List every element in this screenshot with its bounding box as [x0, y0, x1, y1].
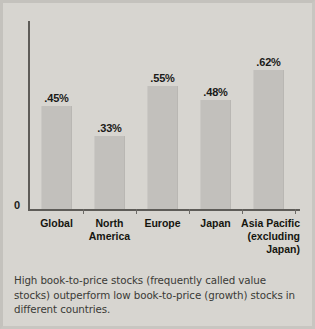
x-axis-category-labels: Global North America Europe Japan Asia P…	[30, 217, 300, 275]
x-axis-tick	[189, 209, 190, 214]
chart-caption: High book-to-price stocks (frequently ca…	[14, 273, 304, 317]
bar-value-asia-pacific: .62%	[242, 56, 295, 68]
bar-value-global: .45%	[30, 92, 83, 104]
bar-slot-europe: .55%	[136, 21, 189, 209]
bar-slot-japan: .48%	[189, 21, 242, 209]
x-label-asia-pacific-line1: Asia Pacific	[222, 217, 300, 230]
y-axis-origin-label: 0	[14, 199, 20, 211]
bar-europe[interactable]	[147, 86, 178, 209]
bar-slot-asia-pacific: .62%	[242, 21, 295, 209]
bar-value-north-america: .33%	[83, 122, 136, 134]
x-label-europe-line1: Europe	[136, 217, 189, 230]
x-label-global-line1: Global	[30, 217, 83, 230]
x-axis-tick	[83, 209, 84, 214]
x-axis-tick	[136, 209, 137, 214]
x-label-north-america-line1: North	[83, 217, 136, 230]
plot-area: 0 .45% .33% .55%	[3, 3, 315, 215]
chart-figure: 0 .45% .33% .55%	[0, 0, 315, 329]
x-label-europe: Europe	[136, 217, 189, 230]
bar-group: .45% .33% .55% .48% .62%	[30, 21, 300, 209]
x-label-north-america: North America	[83, 217, 136, 243]
x-axis-tick	[295, 209, 296, 214]
x-label-north-america-line2: America	[83, 230, 136, 243]
bar-north-america[interactable]	[94, 136, 125, 209]
bar-value-japan: .48%	[189, 86, 242, 98]
x-label-asia-pacific: Asia Pacific (excluding Japan)	[222, 217, 300, 256]
bar-asia-pacific[interactable]	[253, 70, 284, 209]
x-label-asia-pacific-line3: Japan)	[222, 243, 300, 256]
x-label-asia-pacific-line2: (excluding	[222, 230, 300, 243]
x-axis-tick	[242, 209, 243, 214]
bar-slot-north-america: .33%	[83, 21, 136, 209]
x-axis-line	[28, 209, 300, 211]
bar-value-europe: .55%	[136, 72, 189, 84]
bar-slot-global: .45%	[30, 21, 83, 209]
bar-japan[interactable]	[200, 100, 231, 209]
bar-global[interactable]	[41, 106, 72, 209]
x-label-global: Global	[30, 217, 83, 230]
